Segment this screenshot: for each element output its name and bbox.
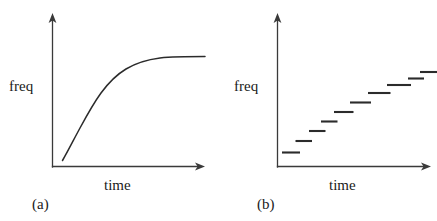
panel-b-y-axis-label: freq <box>234 78 259 94</box>
figure-svg: freq time (a) <box>0 0 437 221</box>
panel-b-y-axis <box>274 13 282 167</box>
panel-a: freq time (a) <box>9 13 205 213</box>
figure-container: freq time (a) <box>0 0 437 221</box>
panel-b-caption: (b) <box>257 196 275 213</box>
panel-a-caption: (a) <box>32 196 49 213</box>
panel-a-y-axis-label: freq <box>9 78 34 94</box>
panel-b-x-axis <box>278 163 432 171</box>
panel-b: freq time (b) <box>234 13 437 213</box>
panel-a-growth-curve <box>63 57 206 161</box>
panel-b-x-axis-label: time <box>329 177 356 193</box>
panel-b-step-segments <box>282 72 437 153</box>
panel-a-y-axis <box>49 13 57 167</box>
panel-a-x-axis <box>53 163 206 171</box>
panel-a-x-axis-label: time <box>104 177 131 193</box>
